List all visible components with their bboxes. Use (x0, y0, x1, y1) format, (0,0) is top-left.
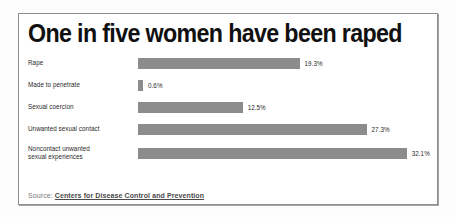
bar-value-sexual-coercion: 12.5% (248, 104, 266, 111)
bar-track: 32.1% (138, 140, 431, 166)
bar-track: 12.5% (138, 96, 431, 118)
scanned-page: One in five women have been raped Rape 1… (0, 0, 455, 217)
bar-track: 0.6% (138, 74, 431, 96)
table-row: Rape 19.3% (28, 52, 431, 74)
table-row: Unwanted sexual contact 27.3% (28, 118, 431, 140)
bar-label-noncontact-unwanted: Noncontact unwanted sexual experiences (28, 140, 132, 166)
bar-track: 19.3% (138, 52, 431, 74)
table-row: Sexual coercion 12.5% (28, 96, 431, 118)
source-note: Source:Centers for Disease Control and P… (28, 192, 204, 199)
bar-label-line1: Rape (28, 59, 132, 67)
bar-label-unwanted-sexual-contact: Unwanted sexual contact (28, 118, 132, 140)
bar-fill-rape (138, 58, 300, 69)
bar-fill-sexual-coercion (138, 102, 243, 113)
bar-label-line1: Made to penetrate (28, 81, 132, 89)
bar-value-made-to-penetrate: 0.6% (148, 82, 163, 89)
bar-label-line1: Unwanted sexual contact (28, 125, 132, 133)
table-row: Made to penetrate 0.6% (28, 74, 431, 96)
bar-value-unwanted-sexual-contact: 27.3% (372, 126, 390, 133)
source-link[interactable]: Centers for Disease Control and Preventi… (55, 192, 204, 199)
bar-fill-unwanted-sexual-contact (138, 124, 367, 135)
bar-label-line1: Sexual coercion (28, 103, 132, 111)
bar-label-rape: Rape (28, 52, 132, 74)
bar-track: 27.3% (138, 118, 431, 140)
bar-fill-noncontact-unwanted (138, 148, 407, 159)
bar-chart: Rape 19.3% Made to penetrate 0.6% Se (28, 52, 431, 178)
infographic-card: One in five women have been raped Rape 1… (18, 13, 438, 205)
table-row: Noncontact unwanted sexual experiences 3… (28, 140, 431, 166)
bar-label-line1: Noncontact unwanted (28, 145, 132, 153)
bar-value-rape: 19.3% (305, 60, 323, 67)
page-title: One in five women have been raped (28, 18, 401, 48)
bar-fill-made-to-penetrate (138, 80, 143, 91)
source-prefix-label: Source: (28, 192, 53, 199)
bar-value-noncontact-unwanted: 32.1% (412, 150, 430, 157)
bar-label-sexual-coercion: Sexual coercion (28, 96, 132, 118)
bar-label-line2: sexual experiences (28, 153, 132, 161)
bar-label-made-to-penetrate: Made to penetrate (28, 74, 132, 96)
title-container: One in five women have been raped (28, 18, 429, 48)
